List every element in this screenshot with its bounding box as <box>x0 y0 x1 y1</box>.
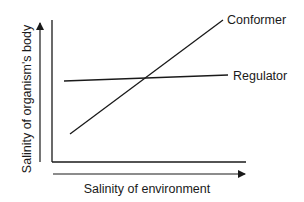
conformer-line <box>70 20 223 134</box>
y-axis-label: Salinity of organism's body <box>20 24 34 173</box>
x-axis-label: Salinity of environment <box>84 182 211 196</box>
conformer-label: Conformer <box>227 13 286 27</box>
regulator-label: Regulator <box>233 69 287 83</box>
salinity-diagram: Conformer Regulator Salinity of environm… <box>0 0 304 202</box>
regulator-line <box>64 75 228 81</box>
